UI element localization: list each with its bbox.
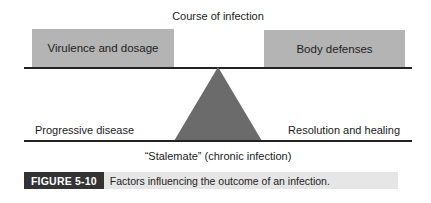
body-defenses-box: Body defenses — [264, 30, 405, 68]
resolution-healing-label: Resolution and healing — [288, 124, 400, 136]
body-defenses-label: Body defenses — [296, 43, 372, 55]
virulence-dosage-box: Virulence and dosage — [32, 29, 174, 67]
stalemate-label: “Stalemate” (chronic infection) — [0, 150, 431, 162]
figure-number: FIGURE 5-10 — [24, 172, 104, 189]
figure-caption: FIGURE 5-10 Factors influencing the outc… — [24, 172, 398, 189]
progressive-disease-label: Progressive disease — [35, 124, 134, 136]
base-line — [24, 140, 412, 142]
fulcrum-triangle-icon — [170, 67, 266, 141]
caption-text: Factors influencing the outcome of an in… — [104, 175, 330, 187]
virulence-dosage-label: Virulence and dosage — [47, 42, 158, 54]
diagram-title: Course of infection — [0, 10, 431, 22]
